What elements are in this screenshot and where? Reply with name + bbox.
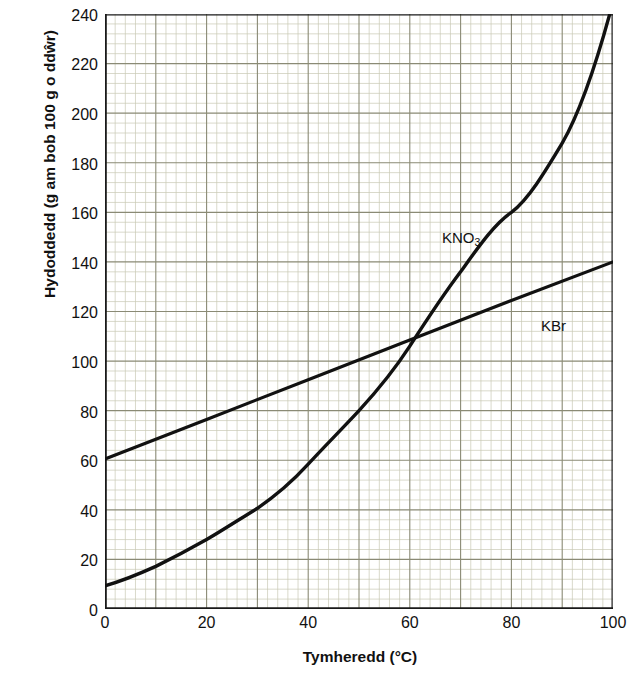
x-tick-100: 100 [593, 615, 633, 631]
y-tick-60: 60 [54, 454, 98, 470]
y-tick-160: 160 [54, 206, 98, 222]
kno3-series-label: KNO3 [442, 229, 480, 246]
y-tick-240: 240 [54, 8, 98, 24]
y-tick-140: 140 [54, 256, 98, 272]
y-axis-tick-labels: 0 20 40 60 80 100 120 140 160 180 200 22… [50, 14, 98, 609]
x-tick-40: 40 [288, 615, 328, 631]
y-tick-180: 180 [54, 157, 98, 173]
solubility-chart: Hydoddedd (g am bob 100 g o ddŵr) Tymher… [0, 0, 635, 685]
y-tick-200: 200 [54, 107, 98, 123]
y-tick-120: 120 [54, 305, 98, 321]
x-tick-20: 20 [187, 615, 227, 631]
x-tick-60: 60 [390, 615, 430, 631]
x-axis-tick-labels: 0 20 40 60 80 100 [105, 615, 613, 639]
y-tick-220: 220 [54, 57, 98, 73]
y-tick-40: 40 [54, 504, 98, 520]
x-tick-80: 80 [491, 615, 531, 631]
x-tick-0: 0 [85, 615, 125, 631]
x-axis-title: Tymheredd (°C) [105, 648, 615, 666]
plot-area: KNO3 KBr [105, 14, 613, 609]
y-tick-20: 20 [54, 553, 98, 569]
kbr-series-label: KBr [541, 317, 566, 334]
plot-svg [105, 14, 613, 609]
y-tick-100: 100 [54, 355, 98, 371]
y-tick-80: 80 [54, 405, 98, 421]
